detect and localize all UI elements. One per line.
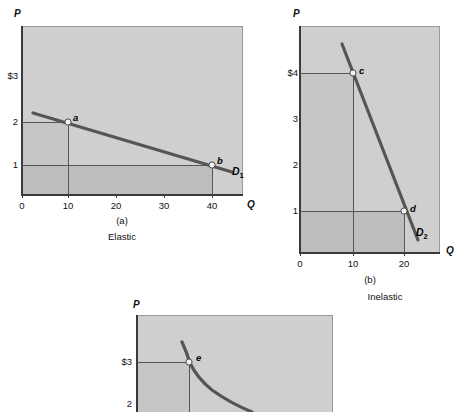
panel-a-demand-curve (0, 0, 265, 270)
panel-a-elastic: P Q $3 2 1 0 10 20 30 40 a b D1 (a) Elas… (0, 0, 265, 270)
panel-c-ytick-label-2: 2 (110, 398, 132, 409)
panel-a-xtick-label-0: 0 (12, 200, 32, 211)
panel-a-xtick-label-20: 20 (106, 200, 126, 211)
panel-b-point-label-c: c (359, 65, 364, 76)
panel-c-demand-curve (100, 295, 350, 412)
panel-a-curve-label-d1: D1 (232, 165, 244, 180)
panel-c-unitary: P $3 2 e (100, 295, 350, 412)
panel-b-xtick-label-0: 0 (290, 258, 310, 269)
panel-a-ytick-label-3: $3 (0, 70, 18, 81)
panel-c-ytick-label-3: $3 (110, 356, 132, 367)
panel-b-curve-label-d2-text: D (416, 226, 424, 238)
panel-a-ytick-label-2: 2 (0, 116, 18, 127)
panel-b-xtick-label-10: 10 (343, 258, 363, 269)
panel-b-caption-name: Inelastic (355, 291, 415, 302)
panel-b-demand-curve (290, 0, 465, 305)
panel-b-ytick-label-1: 1 (278, 205, 298, 216)
panel-a-xtick-label-10: 10 (58, 200, 78, 211)
panel-c-point-label-e: e (196, 352, 201, 363)
panel-b-caption-id: (b) (340, 274, 400, 285)
panel-b-inelastic: P Q $4 3 2 1 0 10 20 c d D2 (b) Inelasti… (290, 0, 465, 305)
panel-b-point-label-d: d (410, 203, 416, 214)
panel-a-ytick-label-1: 1 (0, 159, 18, 170)
panel-a-y-axis-label: P (14, 8, 21, 19)
panel-a-point-label-a: a (73, 112, 78, 123)
panel-a-caption-name: Elastic (92, 231, 152, 242)
panel-b-ytick-label-2: 2 (278, 159, 298, 170)
panel-b-curve-label-d2-sub: 2 (424, 232, 428, 241)
panel-b-ytick-label-3: 3 (278, 113, 298, 124)
panel-b-y-axis-label: P (293, 8, 300, 19)
panel-a-xtick-label-40: 40 (202, 200, 222, 211)
panel-a-curve-label-d1-sub: 1 (240, 171, 244, 180)
panel-b-curve-label-d2: D2 (416, 226, 428, 241)
panel-b-xtick-label-20: 20 (394, 258, 414, 269)
panel-a-x-axis-label: Q (247, 199, 255, 210)
panel-a-point-label-b: b (217, 155, 223, 166)
panel-a-curve-label-d1-text: D (232, 165, 240, 177)
panel-b-x-axis-label: Q (446, 245, 454, 256)
panel-b-ytick-label-4: $4 (278, 67, 298, 78)
panel-a-caption-id: (a) (92, 215, 152, 226)
panel-c-y-axis-label: P (133, 299, 140, 310)
panel-a-xtick-label-30: 30 (154, 200, 174, 211)
